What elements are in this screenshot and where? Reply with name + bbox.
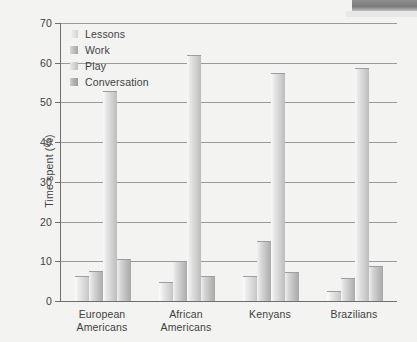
bar bbox=[75, 276, 89, 301]
legend-swatch-icon bbox=[70, 30, 78, 38]
bar bbox=[257, 241, 271, 301]
legend-swatch-icon bbox=[70, 78, 78, 86]
bar bbox=[369, 266, 383, 301]
bar-group bbox=[243, 23, 299, 301]
category-label-line: Americans bbox=[60, 321, 144, 334]
y-tick-20 bbox=[55, 222, 61, 223]
y-tick-label-0: 0 bbox=[46, 295, 52, 307]
bar-group bbox=[159, 23, 215, 301]
bar bbox=[103, 91, 117, 301]
y-tick-40 bbox=[55, 142, 61, 143]
bar bbox=[271, 73, 285, 301]
x-axis-category-label: EuropeanAmericans bbox=[60, 308, 144, 333]
bar bbox=[285, 272, 299, 301]
bar bbox=[201, 276, 215, 301]
category-label-line: European bbox=[60, 308, 144, 321]
y-tick-60 bbox=[55, 63, 61, 64]
legend-label: Work bbox=[85, 44, 110, 56]
y-tick-label-20: 20 bbox=[40, 216, 52, 228]
y-tick-30 bbox=[55, 182, 61, 183]
y-tick-label-60: 60 bbox=[40, 57, 52, 69]
x-axis-category-label: Kenyans bbox=[228, 308, 312, 321]
bar bbox=[187, 55, 201, 301]
legend-label: Play bbox=[85, 60, 106, 72]
legend-item: Play bbox=[70, 59, 149, 73]
legend-swatch-icon bbox=[70, 62, 78, 70]
legend-label: Conversation bbox=[85, 76, 149, 88]
x-axis-category-label: Brazilians bbox=[312, 308, 396, 321]
y-tick-label-70: 70 bbox=[40, 17, 52, 29]
y-tick-50 bbox=[55, 102, 61, 103]
y-tick-label-40: 40 bbox=[40, 136, 52, 148]
bar bbox=[355, 68, 369, 301]
category-label-line: African bbox=[144, 308, 228, 321]
y-tick-label-10: 10 bbox=[40, 255, 52, 267]
bar bbox=[243, 276, 257, 301]
bar bbox=[117, 259, 131, 301]
category-label-line: Americans bbox=[144, 321, 228, 334]
y-tick-label-30: 30 bbox=[40, 176, 52, 188]
legend-label: Lessons bbox=[85, 28, 125, 40]
chart-legend: LessonsWorkPlayConversation bbox=[70, 27, 149, 91]
scan-edge-artifact bbox=[352, 0, 417, 11]
legend-item: Conversation bbox=[70, 75, 149, 89]
bar bbox=[173, 261, 187, 301]
y-tick-label-50: 50 bbox=[40, 96, 52, 108]
bar bbox=[159, 282, 173, 301]
y-tick-0 bbox=[55, 301, 61, 302]
bar bbox=[341, 278, 355, 301]
bar bbox=[327, 291, 341, 301]
y-tick-10 bbox=[55, 261, 61, 262]
y-tick-70 bbox=[55, 23, 61, 24]
bar-chart-figure: Time spent (%) 706050403020100 EuropeanA… bbox=[0, 0, 417, 342]
legend-item: Lessons bbox=[70, 27, 149, 41]
category-label-line: Kenyans bbox=[228, 308, 312, 321]
category-label-line: Brazilians bbox=[312, 308, 396, 321]
scan-edge-artifact-highlight bbox=[346, 11, 417, 17]
legend-swatch-icon bbox=[70, 46, 78, 54]
bar-group bbox=[327, 23, 383, 301]
legend-item: Work bbox=[70, 43, 149, 57]
x-axis-category-label: AfricanAmericans bbox=[144, 308, 228, 333]
bar bbox=[89, 271, 103, 301]
